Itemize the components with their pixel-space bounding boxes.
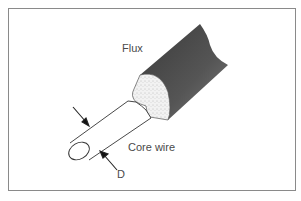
core-wire-label: Core wire	[128, 141, 175, 153]
diameter-label: D	[117, 168, 125, 180]
flux-label: Flux	[122, 42, 143, 54]
electrode-illustration	[0, 0, 301, 201]
